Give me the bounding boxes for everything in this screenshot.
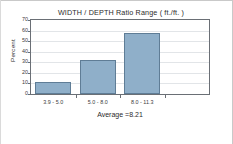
- y-tick-mark: [28, 20, 30, 21]
- y-tick-mark: [28, 41, 30, 42]
- y-tick-mark: [28, 73, 30, 74]
- y-tick-mark: [28, 31, 30, 32]
- y-tick-label: 70: [14, 17, 28, 22]
- y-tick-label: 30: [14, 59, 28, 64]
- y-tick-label: 20: [14, 70, 28, 75]
- average-label: Average =8.21: [30, 111, 210, 118]
- bars-layer: [31, 20, 209, 94]
- chart-figure: WIDTH / DEPTH Ratio Range ( ft./ft. ) Pe…: [3, 3, 215, 136]
- bar: [35, 82, 71, 94]
- chart-page: WIDTH / DEPTH Ratio Range ( ft./ft. ) Pe…: [0, 0, 233, 144]
- y-axis-tick-labels: 010203040506070: [12, 19, 28, 95]
- y-tick-label: 60: [14, 28, 28, 33]
- y-tick-label: 40: [14, 49, 28, 54]
- y-tick-mark: [28, 94, 30, 95]
- y-tick-mark: [28, 52, 30, 53]
- x-tick-mark: [120, 95, 121, 98]
- page-border-left: [0, 0, 1, 144]
- x-category-label: 8.0 - 11.3: [112, 99, 172, 105]
- y-tick-label: 50: [14, 38, 28, 43]
- y-tick-label: 10: [14, 80, 28, 85]
- bar: [124, 33, 160, 94]
- x-tick-mark: [165, 95, 166, 98]
- page-border-top: [0, 0, 233, 1]
- chart-title: WIDTH / DEPTH Ratio Range ( ft./ft. ): [31, 8, 211, 17]
- y-tick-mark: [28, 62, 30, 63]
- page-border-right: [232, 0, 233, 144]
- bar: [80, 60, 116, 94]
- y-tick-mark: [28, 83, 30, 84]
- x-tick-mark: [76, 95, 77, 98]
- y-tick-label: 0: [14, 91, 28, 96]
